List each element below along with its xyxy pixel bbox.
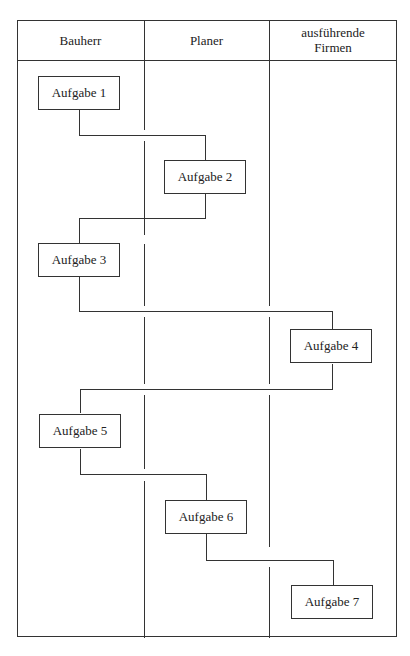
connector (206, 534, 207, 561)
lane-label: ausführende Firmen (301, 25, 365, 55)
task-box-6: Aufgabe 6 (165, 500, 247, 534)
header-divider (17, 60, 397, 61)
task-box-2: Aufgabe 2 (164, 160, 246, 194)
connector (79, 311, 332, 312)
lane-header-planer: Planer (144, 20, 269, 60)
task-label: Aufgabe 2 (178, 169, 233, 185)
connector (79, 218, 80, 243)
connector (79, 277, 80, 312)
task-box-1: Aufgabe 1 (38, 76, 120, 110)
connector (333, 560, 334, 586)
task-box-7: Aufgabe 7 (291, 585, 373, 619)
connector (79, 110, 80, 136)
task-label: Aufgabe 1 (52, 85, 107, 101)
lane-divider (144, 20, 145, 130)
connector (205, 135, 206, 160)
lane-header-firmen: ausführende Firmen (269, 20, 397, 60)
connector (332, 311, 333, 330)
task-label: Aufgabe 7 (305, 594, 360, 610)
connector (80, 389, 81, 413)
connector (80, 474, 207, 475)
lane-divider (144, 244, 145, 306)
task-box-5: Aufgabe 5 (39, 414, 121, 448)
task-label: Aufgabe 6 (179, 509, 234, 525)
connector (79, 135, 206, 136)
connector (80, 389, 333, 390)
lane-divider (144, 481, 145, 638)
lane-label: Bauherr (60, 33, 102, 48)
lane-divider (269, 567, 270, 638)
lane-divider (269, 20, 270, 306)
task-label: Aufgabe 3 (52, 252, 107, 268)
lane-header-bauherr: Bauherr (17, 20, 144, 60)
lane-divider (269, 395, 270, 547)
task-label: Aufgabe 4 (304, 338, 359, 354)
lane-divider (269, 317, 270, 384)
connector (332, 364, 333, 390)
lane-divider (144, 317, 145, 384)
connector (206, 560, 333, 561)
task-label: Aufgabe 5 (53, 423, 108, 439)
connector (80, 449, 81, 475)
task-box-3: Aufgabe 3 (38, 243, 120, 277)
connector (206, 474, 207, 500)
lane-label: Planer (190, 33, 223, 48)
task-box-4: Aufgabe 4 (290, 329, 372, 363)
lane-divider (144, 141, 145, 235)
connector (79, 218, 206, 219)
connector (205, 194, 206, 219)
lane-divider (144, 395, 145, 469)
